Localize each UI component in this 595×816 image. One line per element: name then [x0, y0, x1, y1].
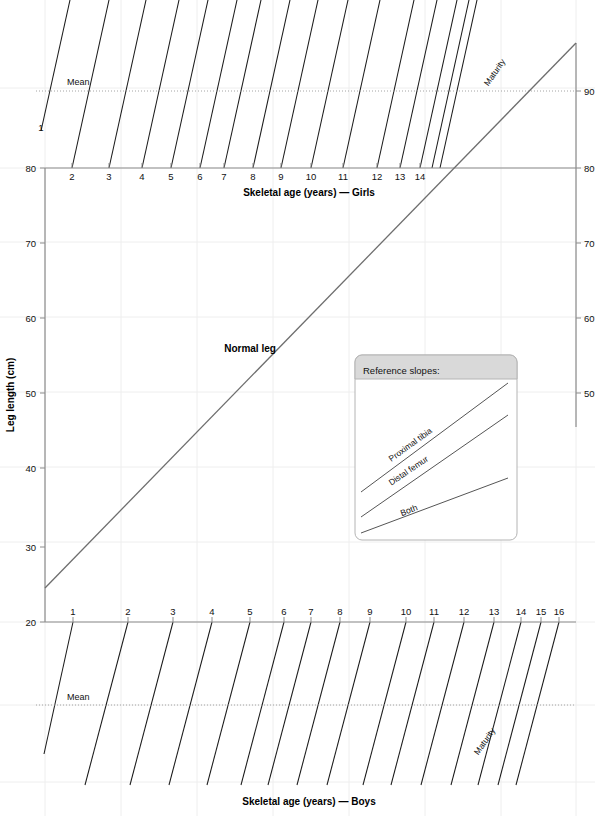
boys-tick-label-7: 7: [308, 606, 313, 617]
boys-tick-label-11: 11: [429, 606, 439, 617]
girls-mean-label: Mean: [67, 77, 90, 87]
girls-maturity-label: Maturity: [482, 56, 508, 87]
left-y-axis: 80 70 60 50 40 30 20 Leg length (cm): [5, 163, 45, 628]
left-tick-label-50: 50: [25, 388, 36, 399]
girls-tick-label-12: 12: [372, 171, 383, 182]
boys-mean-label: Mean: [67, 692, 90, 702]
girls-growth-line: [377, 0, 414, 168]
boys-growth-line: [85, 622, 128, 785]
girls-growth-line: [253, 0, 290, 168]
girls-growth-line: [171, 0, 208, 168]
girls-growth-lines: [41, 0, 477, 168]
girls-growth-line: [142, 0, 179, 168]
boys-tick-label-15: 15: [536, 606, 547, 617]
girls-growth-line: [311, 0, 348, 168]
left-tick-label-40: 40: [25, 463, 36, 474]
boys-growth-line: [478, 622, 521, 785]
y-axis-title: Leg length (cm): [5, 358, 16, 432]
nomogram-chart-root: Mean Maturity 1: [0, 0, 595, 816]
boys-tick-marks: [73, 617, 559, 622]
legend-panel: [355, 355, 517, 540]
boys-tick-label-12: 12: [459, 606, 470, 617]
girls-tick-label-7: 7: [221, 171, 226, 182]
boys-growth-line: [241, 622, 284, 785]
boys-tick-label-2: 2: [125, 606, 130, 617]
girls-tick-label-13: 13: [395, 171, 406, 182]
boys-growth-line: [169, 622, 212, 785]
girls-growth-line: [200, 0, 237, 168]
girls-growth-line: [109, 0, 146, 168]
boys-tick-label-16: 16: [554, 606, 565, 617]
girls-tick-label-11: 11: [338, 171, 348, 182]
boys-growth-line: [207, 622, 250, 785]
boys-growth-line: [44, 622, 73, 754]
boys-growth-line: [130, 622, 173, 785]
left-tick-label-20: 20: [25, 617, 36, 628]
girls-tick-label-8: 8: [250, 171, 255, 182]
girls-axis-title: Skeletal age (years) — Girls: [243, 187, 375, 198]
left-tick-label-60: 60: [25, 313, 36, 324]
right-tick-label-80: 80: [584, 163, 595, 174]
girls-tick-label-4: 4: [139, 171, 144, 182]
boys-maturity-line: [516, 622, 559, 785]
girls-tick-label-1: 1: [38, 122, 43, 133]
boys-tick-label-1: 1: [70, 606, 75, 617]
boys-growth-line: [363, 622, 406, 785]
boys-tick-label-13: 13: [489, 606, 500, 617]
boys-growth-line: [268, 622, 311, 785]
girls-maturity-line: [432, 0, 469, 168]
girls-tick-label-3: 3: [106, 171, 111, 182]
boys-tick-label-5: 5: [247, 606, 252, 617]
boys-tick-label-8: 8: [337, 606, 342, 617]
left-tick-label-30: 30: [25, 542, 36, 553]
girls-maturity-line: [440, 0, 477, 168]
girls-tick-label-2: 2: [69, 171, 74, 182]
legend-title: Reference slopes:: [363, 365, 440, 376]
right-tick-label-70: 70: [584, 238, 595, 249]
boys-tick-label-6: 6: [281, 606, 286, 617]
boys-tick-label-10: 10: [401, 606, 412, 617]
boys-tick-label-9: 9: [367, 606, 372, 617]
boys-axis-title: Skeletal age (years) — Boys: [242, 796, 376, 807]
reference-slopes-legend[interactable]: Reference slopes: Proximal tibia Distal …: [355, 355, 517, 540]
right-tick-label-90: 90: [584, 86, 595, 97]
girls-growth-line: [420, 0, 457, 168]
boys-tick-label-3: 3: [170, 606, 175, 617]
right-y-axis: 90 80 70 60 50: [576, 43, 595, 427]
girls-tick-label-14: 14: [415, 171, 426, 182]
boys-tick-label-14: 14: [516, 606, 527, 617]
girls-tick-label-6: 6: [197, 171, 202, 182]
girls-panel: Mean Maturity 1: [36, 0, 576, 198]
left-tick-label-80: 80: [25, 163, 36, 174]
boys-tick-label-4: 4: [209, 606, 214, 617]
girls-growth-line: [400, 0, 437, 168]
right-tick-label-60: 60: [584, 313, 595, 324]
moseley-straight-line-graph: Mean Maturity 1: [0, 0, 595, 816]
girls-tick-label-10: 10: [306, 171, 317, 182]
boys-maturity-line: [498, 622, 541, 785]
left-tick-label-70: 70: [25, 238, 36, 249]
girls-tick-label-9: 9: [278, 171, 283, 182]
girls-growth-line: [224, 0, 261, 168]
girls-tick-label-5: 5: [168, 171, 173, 182]
boys-panel: Mean Maturity 1: [36, 606, 576, 807]
girls-tick-marks: [72, 163, 420, 168]
normal-leg-label: Normal leg: [224, 343, 276, 354]
girls-growth-line: [281, 0, 318, 168]
right-tick-label-50: 50: [584, 388, 595, 399]
boys-maturity-label: Maturity: [472, 725, 498, 756]
